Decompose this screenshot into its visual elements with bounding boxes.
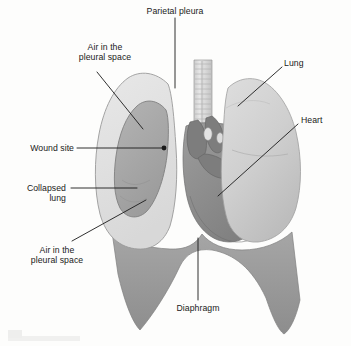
label-lung: Lung xyxy=(284,58,334,68)
label-parietal-pleura: Parietal pleura xyxy=(133,6,217,16)
label-heart: Heart xyxy=(301,115,349,125)
right-lung-shape xyxy=(221,79,300,242)
anatomy-illustration xyxy=(0,0,351,346)
label-air-pleural-space-top-line2: pleural space xyxy=(62,52,148,62)
label-wound-site: Wound site xyxy=(4,143,74,153)
scan-artifact xyxy=(8,330,80,341)
wound-site-marker xyxy=(162,146,167,151)
label-air-pleural-space-bottom-line2: pleural space xyxy=(14,255,100,265)
label-air-pleural-space-top-line1: Air in the xyxy=(62,42,148,52)
label-diaphragm: Diaphragm xyxy=(160,303,236,313)
label-collapsed-lung-line1: Collapsed xyxy=(2,183,66,193)
pneumothorax-diagram: Parietal pleura Air in the pleural space… xyxy=(0,0,351,346)
label-collapsed-lung-line2: lung xyxy=(2,193,66,203)
label-air-pleural-space-bottom-line1: Air in the xyxy=(14,245,100,255)
